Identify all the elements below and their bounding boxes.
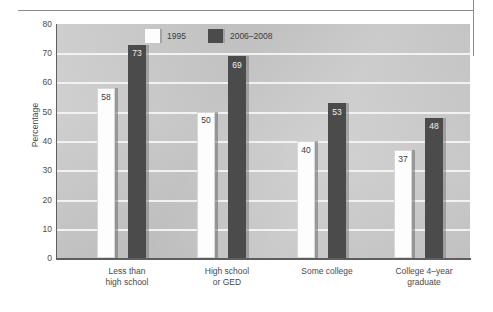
bar-value-label: 73	[128, 49, 146, 58]
bar-group-college-4-year-graduate: 37 48	[394, 24, 464, 258]
x-axis-line	[56, 258, 471, 260]
y-tick-70: 70	[28, 49, 52, 57]
y-tick-80: 80	[28, 20, 52, 28]
bar-value-label: 50	[197, 116, 215, 125]
plot-area: 1995 2006–2008 58 73 50	[57, 24, 470, 258]
y-axis-title: Percentage	[30, 80, 40, 170]
x-axis-labels: Less than high school High school or GED…	[57, 266, 470, 306]
y-tick-10: 10	[28, 225, 52, 233]
x-label-line-2: or GED	[167, 277, 287, 288]
bar-value-label: 58	[97, 93, 115, 102]
y-tick-0: 0	[28, 254, 52, 262]
page-horizontal-rule	[18, 10, 473, 11]
bar-group-less-than-high-school: 58 73	[97, 24, 167, 258]
x-label-line-1: College 4–year	[364, 266, 484, 277]
bar-value-label: 40	[297, 146, 315, 155]
bar-value-label: 69	[228, 61, 246, 70]
bar-value-label: 37	[394, 155, 412, 164]
bar-group-some-college: 40 53	[297, 24, 367, 258]
legend-label-1995: 1995	[167, 31, 186, 41]
x-label-line-2: graduate	[364, 277, 484, 288]
bar-group-high-school-or-ged: 50 69	[197, 24, 267, 258]
bar-value-label: 53	[328, 108, 346, 117]
bar-value-label: 48	[425, 122, 443, 131]
y-tick-20: 20	[28, 196, 52, 204]
figure-container: 80 70 60 50 40 30 20 10 0 Percentage 199…	[0, 0, 493, 312]
page-vertical-rule	[473, 0, 474, 56]
x-label-college-4-year-graduate: College 4–year graduate	[364, 266, 484, 288]
